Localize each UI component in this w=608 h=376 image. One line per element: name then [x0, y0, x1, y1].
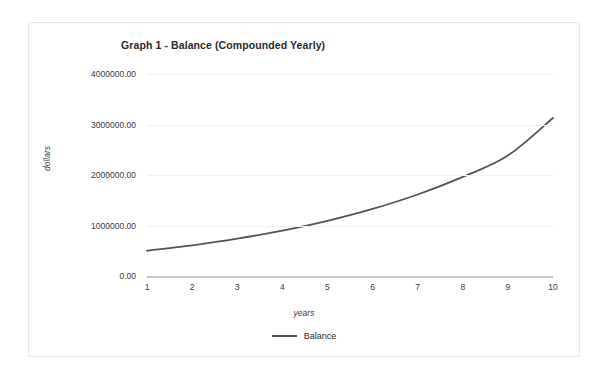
gridline	[147, 175, 553, 176]
x-tick-label: 1	[145, 282, 150, 292]
x-tick-label: 3	[235, 282, 240, 292]
x-tick-label: 7	[415, 282, 420, 292]
x-axis-title: years	[29, 308, 579, 318]
y-tick-label: 0.00	[119, 271, 136, 281]
y-tick-label: 4000000.00	[91, 69, 136, 79]
series-line-balance	[147, 118, 553, 251]
chart-card: Graph 1 - Balance (Compounded Yearly) do…	[28, 22, 580, 357]
x-tick-label: 2	[190, 282, 195, 292]
chart-title: Graph 1 - Balance (Compounded Yearly)	[121, 39, 325, 51]
chart-legend: Balance	[29, 331, 579, 341]
x-tick-label: 8	[460, 282, 465, 292]
x-tick-label: 5	[325, 282, 330, 292]
x-tick-label: 9	[506, 282, 511, 292]
legend-swatch-balance	[272, 335, 297, 337]
y-tick-label: 3000000.00	[91, 120, 136, 130]
x-axis-line	[147, 276, 553, 278]
gridline	[147, 74, 553, 75]
x-tick-label: 4	[280, 282, 285, 292]
legend-label-balance: Balance	[304, 331, 337, 341]
x-tick-label: 6	[370, 282, 375, 292]
x-tick-label: 10	[548, 282, 557, 292]
y-tick-label: 2000000.00	[91, 170, 136, 180]
y-axis-title: dollars	[42, 146, 52, 171]
y-tick-label: 1000000.00	[91, 221, 136, 231]
gridline	[147, 226, 553, 227]
plot-area: 0.001000000.002000000.003000000.00400000…	[147, 74, 553, 276]
gridline	[147, 125, 553, 126]
